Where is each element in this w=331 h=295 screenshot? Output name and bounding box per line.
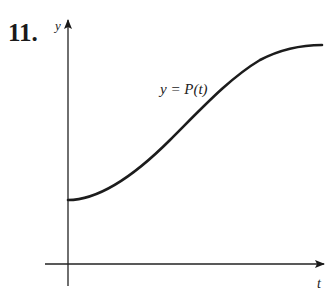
x-axis-label: t [317,276,322,291]
y-axis-label: y [53,18,61,33]
curve-p-of-t [68,45,322,200]
sigmoid-chart: y t y = P(t) [0,0,331,295]
curve-label: y = P(t) [158,81,208,98]
